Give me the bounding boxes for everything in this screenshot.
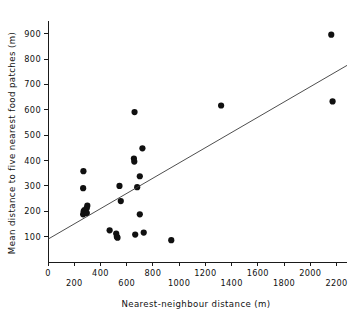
data-points <box>80 32 336 244</box>
y-tick-label: 400 <box>24 156 41 166</box>
plot-canvas: 100200300400500600700800900 020040060080… <box>0 0 353 316</box>
data-point <box>132 232 138 238</box>
data-point <box>168 237 174 243</box>
data-point <box>114 235 120 241</box>
data-point <box>329 98 335 104</box>
x-tick-label: 200 <box>66 278 83 288</box>
x-tick-label: 1800 <box>273 278 295 288</box>
y-tick-label: 800 <box>24 54 41 64</box>
x-tick-label: 1400 <box>220 278 242 288</box>
data-point <box>107 227 113 233</box>
y-tick-label: 300 <box>24 181 41 191</box>
data-point <box>218 102 224 108</box>
x-tick-label: 2000 <box>299 268 321 278</box>
x-tick-label: 600 <box>118 278 135 288</box>
data-point <box>141 229 147 235</box>
x-axis-title: Nearest-neighbour distance (m) <box>121 299 270 309</box>
data-point <box>131 158 137 164</box>
y-tick-label: 700 <box>24 79 41 89</box>
x-tick-label: 1600 <box>247 268 269 278</box>
data-point <box>328 32 334 38</box>
x-tick-label: 400 <box>92 268 109 278</box>
x-tick-label: 1200 <box>194 268 216 278</box>
data-point <box>139 145 145 151</box>
scatter-plot-figure: 100200300400500600700800900 020040060080… <box>0 0 353 316</box>
y-tick-label: 900 <box>24 29 41 39</box>
x-tick-label: 1000 <box>168 278 190 288</box>
data-point <box>131 109 137 115</box>
data-point <box>137 211 143 217</box>
x-tick-label: 0 <box>45 268 51 278</box>
x-tick-label: 2200 <box>325 278 347 288</box>
regression-line <box>48 65 347 239</box>
data-point <box>118 198 124 204</box>
fit-line <box>48 65 347 239</box>
y-axis-ticks: 100200300400500600700800900 <box>24 29 48 242</box>
y-axis-title: Mean distance to five nearest food patch… <box>7 32 17 254</box>
axes <box>48 21 347 262</box>
y-tick-label: 200 <box>24 206 41 216</box>
x-axis-ticks: 0200400600800100012001400160018002000220… <box>45 262 347 288</box>
y-tick-label: 100 <box>24 232 41 242</box>
data-point <box>80 185 86 191</box>
y-tick-label: 600 <box>24 105 41 115</box>
data-point <box>137 173 143 179</box>
data-point <box>80 168 86 174</box>
data-point <box>116 183 122 189</box>
y-tick-label: 500 <box>24 130 41 140</box>
x-tick-label: 800 <box>145 268 162 278</box>
